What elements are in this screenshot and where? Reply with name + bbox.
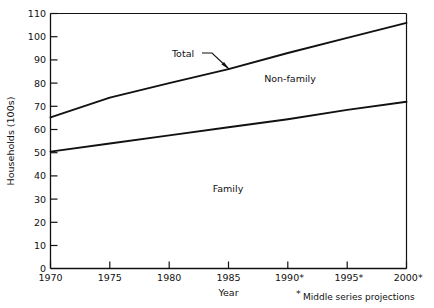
x-tick-label-1970: 1970 (38, 272, 62, 283)
y-tick-label-10: 10 (34, 240, 46, 251)
x-tick-label-1975: 1975 (98, 272, 122, 283)
y-axis-title: Households (100s) (5, 97, 16, 186)
x-tick-label-1990: 1990* (275, 272, 304, 283)
y-tick-label-30: 30 (34, 194, 46, 205)
y-tick-label-50: 50 (34, 147, 46, 158)
x-tick-label-1995: 1995* (334, 272, 363, 283)
chart-background (0, 0, 434, 308)
annotation-label-total: Total (171, 48, 194, 59)
y-tick-label-100: 100 (28, 31, 46, 42)
chart-figure: 110 100 90 80 70 60 50 40 30 20 10 0 197… (0, 0, 434, 308)
y-tick-label-80: 80 (34, 78, 46, 89)
area-label-family: Family (213, 183, 244, 194)
footnote-star-marker: * (296, 288, 301, 299)
y-tick-label-90: 90 (34, 54, 46, 65)
y-tick-label-20: 20 (34, 217, 46, 228)
x-tick-label-1980: 1980 (157, 272, 181, 283)
x-tick-label-1985: 1985 (216, 272, 240, 283)
area-label-non-family: Non-family (264, 73, 316, 84)
households-line-chart: 110 100 90 80 70 60 50 40 30 20 10 0 197… (0, 0, 434, 308)
y-tick-label-40: 40 (34, 170, 46, 181)
footnote-text: Middle series projections (303, 292, 415, 302)
x-axis-title: Year (217, 287, 238, 298)
y-tick-label-60: 60 (34, 124, 46, 135)
x-tick-label-2000: 2000* (394, 272, 423, 283)
y-tick-label-110: 110 (28, 8, 46, 19)
y-tick-label-70: 70 (34, 101, 46, 112)
